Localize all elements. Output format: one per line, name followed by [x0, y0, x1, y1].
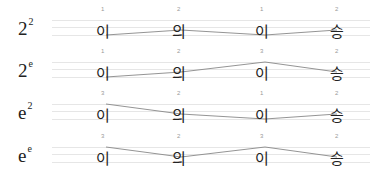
tone-number: 3 [101, 90, 104, 96]
syllable: 승 [330, 62, 344, 83]
syllable: 이 [255, 147, 269, 168]
tone-number: 2 [177, 133, 180, 139]
syllable: 의 [172, 147, 186, 168]
tone-number: 3 [260, 133, 263, 139]
contour-row: 221이2의1이2승 [0, 6, 386, 48]
syllable: 이 [96, 147, 110, 168]
syllable: 승 [330, 20, 344, 41]
syllable: 이 [96, 20, 110, 41]
tone-number: 2 [335, 133, 338, 139]
contour-row: 2e1이2의3이2승 [0, 48, 386, 90]
pitch-contour-line [0, 90, 386, 132]
syllable: 이 [255, 62, 269, 83]
pitch-contour-line [0, 133, 386, 172]
tone-number: 2 [335, 6, 338, 12]
tone-number: 2 [177, 48, 180, 54]
syllable: 이 [255, 104, 269, 125]
pitch-contour-line [0, 6, 386, 48]
contour-row: e23이2의1이2승 [0, 90, 386, 132]
tone-number: 3 [101, 133, 104, 139]
tone-number: 2 [335, 48, 338, 54]
syllable: 의 [172, 62, 186, 83]
tone-number: 1 [260, 90, 263, 96]
syllable: 승 [330, 147, 344, 168]
syllable: 의 [172, 20, 186, 41]
syllable: 승 [330, 104, 344, 125]
tone-number: 3 [260, 48, 263, 54]
contour-row: ee3이2의3이2승 [0, 133, 386, 172]
syllable: 이 [255, 20, 269, 41]
syllable: 이 [96, 62, 110, 83]
tone-number: 1 [101, 6, 104, 12]
syllable: 의 [172, 104, 186, 125]
pitch-contour-line [0, 48, 386, 90]
tone-number: 1 [101, 48, 104, 54]
tone-number: 1 [260, 6, 263, 12]
syllable: 이 [96, 104, 110, 125]
tone-number: 2 [177, 90, 180, 96]
tone-number: 2 [335, 90, 338, 96]
tone-number: 2 [177, 6, 180, 12]
